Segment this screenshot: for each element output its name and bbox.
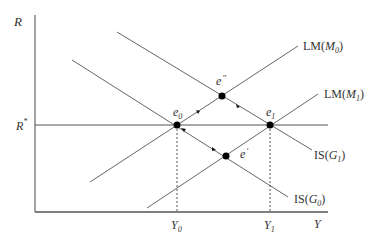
is-lm-diagram: R Y R* Y0 Y1 LM(M0) LM(M1) IS(G1) IS(G0)… xyxy=(0,0,382,241)
point-e1 xyxy=(267,122,274,129)
lm-m0-label: LM(M0) xyxy=(303,39,343,55)
r-star-label: R* xyxy=(15,117,27,133)
lm-m1-label: LM(M1) xyxy=(324,87,364,103)
point-e-prime xyxy=(223,153,230,160)
x-axis-label: Y xyxy=(314,217,322,231)
e-double-prime-label: e″ xyxy=(216,73,226,88)
e0-label: e0 xyxy=(173,105,182,121)
point-e0 xyxy=(174,122,181,129)
e-prime-label: e′ xyxy=(240,146,249,161)
y1-tick-label: Y1 xyxy=(264,218,275,234)
is-g1-curve xyxy=(117,32,312,150)
y0-tick-label: Y0 xyxy=(171,218,182,234)
is-g0-label: IS(G0) xyxy=(294,192,325,208)
is-g0-curve xyxy=(72,60,288,197)
point-e-double-prime xyxy=(219,93,226,100)
e1-label: e1 xyxy=(266,105,275,121)
is-g1-label: IS(G1) xyxy=(314,148,345,164)
y-axis-label: R xyxy=(13,14,22,29)
